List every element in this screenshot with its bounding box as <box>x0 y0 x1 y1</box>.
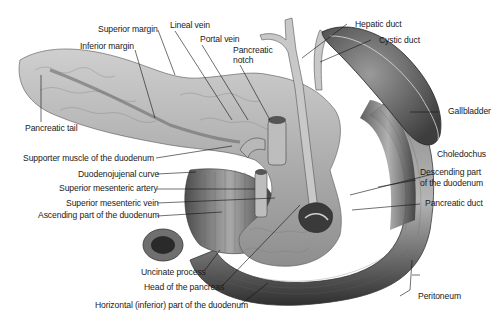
label-choledochus: Choledochus <box>437 149 486 159</box>
label-superior-mesenteric-vein: Superior mesenteric vein <box>66 198 159 208</box>
label-descending-part-1: Descending part <box>420 167 481 177</box>
label-pancreatic-notch-1: Pancreatic <box>233 45 273 55</box>
label-pancreatic-tail: Pancreatic tail <box>25 123 77 133</box>
label-gallbladder: Gallbladder <box>448 106 491 116</box>
label-superior-margin: Superior margin <box>98 24 158 34</box>
label-superior-mesenteric-artery: Superior mesenteric artery <box>59 183 158 193</box>
label-hepatic-duct: Hepatic duct <box>355 19 402 29</box>
label-lineal-vein: Lineal vein <box>170 20 210 30</box>
label-portal-vein: Portal vein <box>200 34 240 44</box>
label-horizontal-part: Horizontal (inferior) part of the duoden… <box>95 300 248 310</box>
label-head-of-pancreas: Head of the pancreas <box>144 282 224 292</box>
sma-vessel <box>255 172 267 217</box>
label-duodenojujenal-curve: Duodenojujenal curve <box>78 169 159 179</box>
label-uncinate-process: Uncinate process <box>141 267 206 277</box>
label-pancreatic-notch-2: notch <box>233 55 254 65</box>
label-ascending-part: Ascending part of the duodenum <box>38 210 159 220</box>
label-pancreatic-duct: Pancreatic duct <box>425 198 483 208</box>
label-cystic-duct: Cystic duct <box>379 35 420 45</box>
label-supporter-muscle: Supporter muscle of the duodenum <box>23 153 154 163</box>
label-peritoneum: Peritoneum <box>418 291 461 301</box>
label-descending-part-2: of the duodenum <box>420 178 483 188</box>
label-inferior-margin: Inferior margin <box>80 41 134 51</box>
portal-vein-vessel <box>268 120 286 165</box>
